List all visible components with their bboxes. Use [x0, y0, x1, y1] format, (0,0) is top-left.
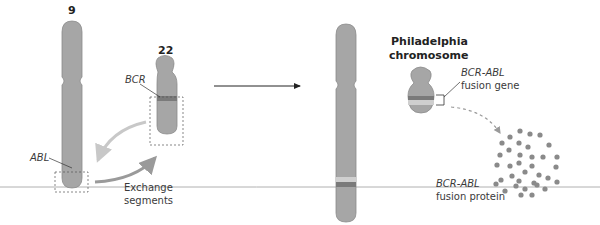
exchange-arrow-to-22	[95, 158, 155, 182]
fusion-gene-pointer	[444, 82, 460, 97]
fusion-protein-name: BCR-ABL	[436, 178, 480, 190]
exchange-arrow-to-9	[98, 122, 146, 160]
chromosome-22	[156, 56, 177, 135]
philadelphia-title-line2: chromosome	[389, 49, 468, 62]
chromosome-22-label: 22	[158, 44, 173, 57]
fusion-gene-label: fusion gene	[461, 80, 519, 92]
fusion-gene-name: BCR-ABL	[461, 67, 505, 79]
derivative-chromosome-9	[336, 24, 356, 222]
fusion-protein-label: fusion protein	[436, 191, 505, 203]
philadelphia-chromosome	[408, 67, 434, 113]
bcr-gene-label: BCR	[125, 74, 146, 86]
chromosome-9-label: 9	[68, 4, 76, 17]
abl-gene-label: ABL	[30, 152, 49, 164]
exchange-label-line2: segments	[124, 195, 173, 207]
chromosome-9	[62, 21, 82, 188]
exchange-label-line1: Exchange	[124, 182, 173, 194]
fusion-gene-bracket	[436, 95, 444, 105]
philadelphia-title-line1: Philadelphia	[391, 35, 468, 48]
diagram-canvas	[0, 0, 600, 225]
expression-arrow	[451, 107, 500, 133]
